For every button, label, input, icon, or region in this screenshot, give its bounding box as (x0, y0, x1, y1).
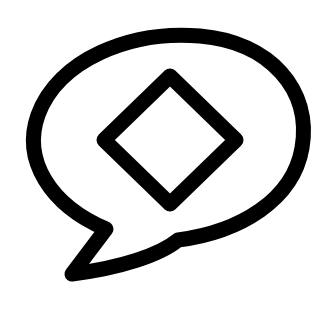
diamond-icon (104, 76, 236, 204)
speech-bubble-icon (0, 0, 336, 313)
speech-bubble-diamond-icon (0, 0, 336, 313)
